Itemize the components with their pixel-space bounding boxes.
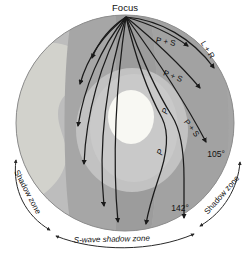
diagram-canvas: Focus L + R P + S P + S P + S P P 105° 1… bbox=[0, 0, 250, 261]
seismic-wave-diagram: Focus L + R P + S P + S P + S P P 105° 1… bbox=[0, 0, 250, 261]
focus-label: Focus bbox=[112, 2, 138, 13]
s-wave-shadow-zone-label: S-wave shadow zone bbox=[74, 234, 151, 245]
earth-globe bbox=[0, 0, 250, 261]
angle-142: 142° bbox=[171, 203, 189, 213]
angle-105: 105° bbox=[207, 149, 225, 159]
